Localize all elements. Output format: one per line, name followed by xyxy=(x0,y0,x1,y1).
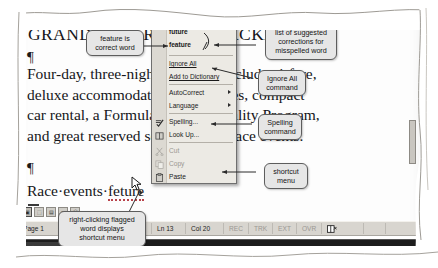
callout-line: command xyxy=(263,127,297,136)
callout-line: misspelled word xyxy=(270,46,332,55)
callout-line: Spelling xyxy=(263,118,297,127)
callout-spelling: Spelling command xyxy=(258,114,302,140)
callout-line: shortcut xyxy=(269,167,303,176)
callout-correct-word: feature is correct word xyxy=(86,30,144,56)
page-edge-bottom-shape xyxy=(0,246,438,268)
callout-shortcut-menu: shortcut menu xyxy=(264,163,308,189)
callout-line: right-clicking flagged xyxy=(63,215,141,224)
callout-ignore-all: Ignore All command xyxy=(258,70,306,96)
callout-line: command xyxy=(263,83,301,92)
callout-line: corrections for xyxy=(270,37,332,46)
callout-line: shortcut menu xyxy=(63,233,141,242)
page-edge-top-shape xyxy=(0,0,438,30)
page-edge-bottom xyxy=(0,246,438,268)
page-edge-right-shape xyxy=(406,0,438,268)
callout-line: Ignore All xyxy=(263,74,301,83)
page-edge-left-shape xyxy=(0,0,26,268)
callout-line: feature is xyxy=(91,34,139,43)
page-edge-top xyxy=(0,0,438,30)
page-edge-left xyxy=(0,0,26,268)
page-edge-right xyxy=(406,0,438,268)
callout-line: word displays xyxy=(63,224,141,233)
screenshot-root: ¶ GRAND PRIX RACING PACKAGE ¶ Four-day, … xyxy=(0,0,438,268)
callout-line: menu xyxy=(269,176,303,185)
callout-line: correct word xyxy=(91,43,139,52)
callout-right-click: right-clicking flagged word displays sho… xyxy=(58,211,146,247)
